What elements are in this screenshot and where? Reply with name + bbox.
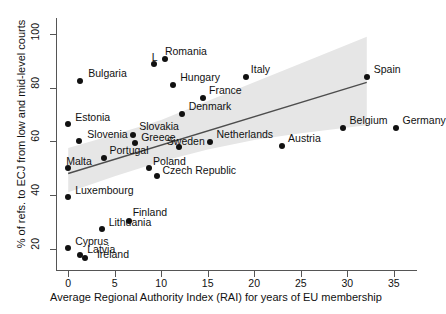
y-tick: [50, 249, 56, 250]
y-tick: [50, 34, 56, 35]
point-label: Ireland: [97, 249, 129, 260]
data-point[interactable]: [393, 125, 399, 131]
x-tick-label: 0: [53, 277, 83, 289]
y-tick-label: 80: [24, 82, 46, 94]
x-axis-title: Average Regional Authority Index (RAI) f…: [0, 291, 432, 303]
data-point[interactable]: [364, 74, 370, 80]
data-point[interactable]: [99, 226, 105, 232]
point-label: Spain: [374, 64, 401, 75]
point-label: Malta: [66, 156, 92, 167]
y-tick-label: 20: [24, 243, 46, 255]
x-tick-label: 10: [146, 277, 176, 289]
point-label-occluded: L: [152, 52, 158, 63]
x-axis-line: [56, 270, 417, 271]
point-label: Estonia: [75, 112, 110, 123]
plot-area: CyprusLuxembourgMaltaEstoniaLatviaIrelan…: [57, 18, 417, 270]
point-label: Luxembourg: [75, 185, 133, 196]
point-label: Finland: [133, 207, 167, 218]
y-tick-label: 40: [24, 189, 46, 201]
point-label: Germany: [403, 115, 446, 126]
point-label: Portugal: [109, 145, 148, 156]
x-tick-label: 25: [286, 277, 316, 289]
y-tick: [50, 195, 56, 196]
y-tick: [50, 88, 56, 89]
data-point[interactable]: [77, 78, 83, 84]
data-point[interactable]: [243, 74, 249, 80]
point-label: Belgium: [350, 115, 388, 126]
point-label: Czech Republic: [163, 165, 237, 176]
x-tick-label: 5: [100, 277, 130, 289]
point-label: Austria: [288, 133, 321, 144]
y-axis-title-wrapper: % of refs. to ECJ from low and mid-level…: [0, 128, 146, 142]
data-point[interactable]: [340, 125, 346, 131]
data-point[interactable]: [179, 111, 185, 117]
point-label: Sweden: [167, 136, 205, 147]
point-label: Bulgaria: [88, 68, 127, 79]
point-label: Romania: [165, 46, 207, 57]
x-tick-label: 30: [332, 277, 362, 289]
x-tick-label: 20: [239, 277, 269, 289]
data-point[interactable]: [65, 245, 71, 251]
x-tick-label: 15: [193, 277, 223, 289]
point-label: Netherlands: [216, 129, 273, 140]
x-tick-label: 35: [379, 277, 409, 289]
point-label: France: [209, 85, 242, 96]
point-label: Denmark: [189, 101, 232, 112]
y-tick-label: 100: [24, 28, 46, 40]
y-axis-title: % of refs. to ECJ from low and mid-level…: [15, 9, 27, 259]
point-label: Italy: [251, 64, 270, 75]
point-label: Hungary: [180, 72, 220, 83]
data-point[interactable]: [82, 255, 88, 261]
